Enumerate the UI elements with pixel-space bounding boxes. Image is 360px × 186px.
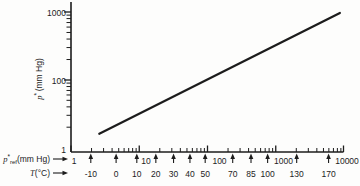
t-tick-label-20: 20 bbox=[151, 169, 161, 179]
substance-vapor-pressure-line bbox=[99, 13, 340, 134]
t-tick-label-40: 40 bbox=[185, 169, 195, 179]
t-tick-label--10: -10 bbox=[85, 169, 98, 179]
temperature-axis-caption-arrow-icon bbox=[63, 171, 69, 176]
x-decade-label-1000: 1000 bbox=[274, 156, 293, 166]
temperature-arrow-head-icon bbox=[203, 154, 208, 160]
y-axis-title: p* (mm Hg) bbox=[33, 58, 44, 101]
t-tick-label-70: 70 bbox=[228, 169, 238, 179]
t-tick-label-170: 170 bbox=[321, 169, 335, 179]
temperature-arrow-head-icon bbox=[265, 154, 270, 160]
temperature-arrow-head-icon bbox=[88, 154, 93, 160]
x-decade-label-1: 1 bbox=[72, 156, 77, 166]
temperature-arrow-head-icon bbox=[188, 154, 193, 160]
cox-chart-canvas: 10001001p* (mm Hg)110100100010000-100102… bbox=[0, 0, 360, 186]
temperature-arrow-head-icon bbox=[326, 154, 331, 160]
t-tick-label-0: 0 bbox=[114, 169, 119, 179]
t-tick-label-30: 30 bbox=[169, 169, 179, 179]
temperature-arrow-head-icon bbox=[294, 154, 299, 160]
y-tick-label-100: 100 bbox=[52, 76, 66, 86]
t-tick-label-130: 130 bbox=[290, 169, 304, 179]
y-tick-label-1: 1 bbox=[61, 145, 66, 155]
pref-axis-caption: p*ref(mm Hg) bbox=[2, 153, 50, 165]
temperature-arrow-head-icon bbox=[249, 154, 254, 160]
t-tick-label-50: 50 bbox=[200, 169, 210, 179]
t-tick-label-100: 100 bbox=[261, 169, 275, 179]
y-tick-label-1000: 1000 bbox=[47, 8, 66, 18]
temperature-arrow-head-icon bbox=[135, 154, 140, 160]
temperature-arrow-head-icon bbox=[230, 154, 235, 160]
x-decade-label-100: 100 bbox=[212, 156, 226, 166]
temperature-arrow-head-icon bbox=[114, 154, 119, 160]
reference-substance-vapor-pressure-figure: 10001001p* (mm Hg)110100100010000-100102… bbox=[0, 0, 360, 186]
x-decade-label-10000: 10000 bbox=[335, 156, 359, 166]
t-tick-label-10: 10 bbox=[132, 169, 142, 179]
t-tick-label-85: 85 bbox=[246, 169, 256, 179]
x-decade-label-10: 10 bbox=[141, 156, 151, 166]
temperature-axis-caption: T(°C) bbox=[30, 168, 50, 178]
temperature-arrow-head-icon bbox=[154, 154, 159, 160]
temperature-arrow-head-icon bbox=[171, 154, 176, 160]
pref-axis-caption-arrow-icon bbox=[63, 157, 69, 162]
